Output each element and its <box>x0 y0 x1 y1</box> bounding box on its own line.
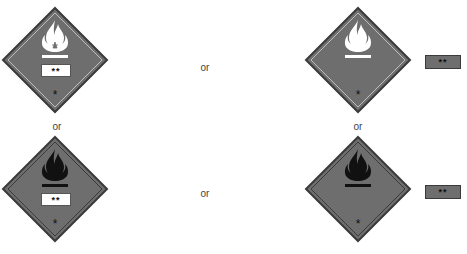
bottom-star-mark: * <box>50 217 60 231</box>
bottom-star-mark: * <box>353 88 363 102</box>
inline-label-box: ** <box>41 193 71 206</box>
inline-label-text: ** <box>51 66 60 76</box>
or-connector-bottom: or <box>190 188 220 200</box>
external-label-box: ** <box>425 185 461 199</box>
external-label-box: ** <box>425 55 461 69</box>
inline-label-text: ** <box>51 195 60 205</box>
or-connector-left: or <box>42 121 72 133</box>
bottom-star-mark: * <box>353 217 363 231</box>
or-connector-right: or <box>343 121 373 133</box>
inline-label-box: ** <box>41 64 71 77</box>
or-connector-top: or <box>190 62 220 74</box>
bottom-star-mark: * <box>50 88 60 102</box>
